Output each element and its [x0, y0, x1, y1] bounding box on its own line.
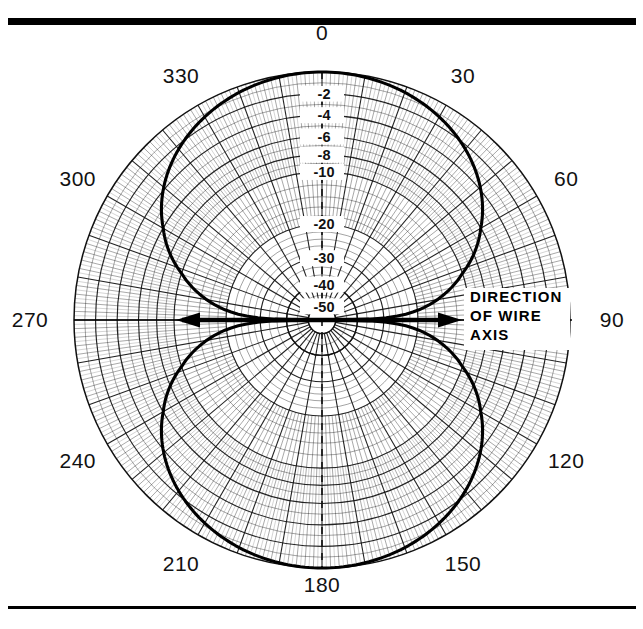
grid-spoke-fine	[275, 465, 294, 563]
grid-spoke-fine	[464, 247, 560, 276]
wire-axis-annotation-line: OF WIRE	[470, 307, 542, 324]
grid-spoke-fine	[225, 92, 264, 184]
grid-spoke-fine	[464, 363, 560, 392]
grid-spoke-fine	[350, 77, 369, 175]
grid-spoke-fine	[365, 83, 394, 179]
angle-label-90: 90	[600, 308, 624, 331]
radial-tick-label: -30	[314, 250, 335, 266]
grid-spoke-major	[107, 196, 310, 313]
grid-spoke-fine	[380, 92, 419, 184]
grid-spoke-minor	[84, 346, 230, 388]
angle-label-210: 210	[163, 552, 200, 575]
grid-spoke-fine	[124, 171, 204, 231]
grid-spoke-fine	[166, 435, 229, 513]
angle-label-330: 330	[163, 64, 200, 87]
radial-tick-label: -6	[318, 129, 331, 145]
grid-spoke-minor	[305, 416, 316, 568]
grid-spoke-minor	[75, 303, 227, 314]
top-rule	[8, 18, 636, 25]
radial-tick-label: -50	[314, 299, 335, 315]
grid-spoke-fine	[85, 363, 181, 392]
wire-axis-annotation: DIRECTIONOF WIREAXIS	[464, 288, 570, 350]
grid-spoke-fine	[249, 83, 278, 179]
grid-spoke-fine	[74, 316, 174, 318]
grid-spoke-fine	[124, 409, 204, 469]
grid-spoke-fine	[440, 171, 520, 231]
polar-radiation-pattern-figure: -2-4-6-8-10-20-30-40-5003060901201501802…	[0, 0, 643, 629]
grid-spoke-fine	[173, 438, 233, 518]
grid-spoke-minor	[287, 415, 308, 566]
grid-spoke-minor	[329, 416, 340, 568]
grid-spoke-minor	[74, 323, 226, 328]
angle-label-150: 150	[445, 552, 482, 575]
angle-label-240: 240	[60, 449, 97, 472]
grid-spoke-major	[107, 327, 310, 444]
radial-tick-label: -20	[314, 216, 335, 232]
grid-spoke-fine	[365, 462, 394, 558]
grid-spoke-fine	[318, 468, 320, 568]
grid-spoke-fine	[141, 421, 214, 489]
grid-spoke-minor	[313, 416, 318, 568]
grid-spoke-fine	[74, 307, 174, 312]
grid-spoke-fine	[350, 465, 369, 563]
grid-spoke-minor	[414, 346, 560, 388]
radial-tick-label: -4	[318, 107, 331, 123]
grid-spoke-minor	[335, 415, 356, 566]
grid-spoke-major	[329, 105, 446, 308]
grid-spoke-major	[198, 105, 315, 308]
grid-spoke-fine	[309, 468, 314, 568]
grid-spoke-fine	[430, 421, 503, 489]
grid-spoke-minor	[348, 412, 390, 558]
angle-label-270: 270	[12, 308, 49, 331]
grid-spoke-fine	[415, 127, 478, 205]
grid-spoke-fine	[249, 462, 278, 558]
grid-spoke-minor	[348, 82, 390, 228]
grid-spoke-fine	[141, 151, 214, 219]
grid-spoke-fine	[173, 122, 233, 202]
grid-spoke-fine	[225, 456, 264, 548]
grid-spoke-major	[329, 332, 446, 535]
arrow-head-right	[438, 313, 462, 328]
polar-chart-svg: -2-4-6-8-10-20-30-40-5003060901201501802…	[0, 0, 643, 629]
grid-spoke-fine	[74, 323, 174, 325]
grid-spoke-minor	[254, 412, 296, 558]
angle-label-120: 120	[548, 449, 585, 472]
grid-spoke-minor	[75, 327, 227, 338]
grid-spoke-fine	[79, 348, 177, 367]
grid-spoke-fine	[467, 348, 565, 367]
wire-axis-annotation-line: AXIS	[470, 326, 509, 343]
radial-tick-label: -8	[318, 147, 331, 163]
grid-spoke-fine	[380, 456, 419, 548]
grid-spoke-fine	[325, 468, 327, 568]
wire-axis-annotation-line: DIRECTION	[470, 288, 562, 305]
grid-spoke-fine	[330, 468, 335, 568]
grid-spoke-fine	[275, 77, 294, 175]
grid-spoke-minor	[332, 415, 348, 566]
grid-spoke-fine	[166, 127, 229, 205]
grid-spoke-fine	[440, 409, 520, 469]
radial-tick-label: -2	[318, 86, 331, 102]
angle-label-60: 60	[554, 167, 578, 190]
grid-spoke-major	[198, 332, 315, 535]
grid-spoke-minor	[296, 415, 312, 566]
grid-spoke-fine	[79, 273, 177, 292]
angle-label-30: 30	[451, 64, 475, 87]
grid-spoke-fine	[411, 438, 471, 518]
angle-label-180: 180	[304, 573, 341, 596]
grid-spoke-fine	[415, 435, 478, 513]
bottom-rule	[8, 606, 636, 609]
grid-spoke-minor	[74, 311, 226, 316]
grid-spoke-fine	[85, 247, 181, 276]
grid-spoke-minor	[254, 82, 296, 228]
angle-label-300: 300	[60, 167, 97, 190]
grid-spoke-fine	[430, 151, 503, 219]
radial-tick-label: -10	[314, 164, 335, 180]
grid-spoke-fine	[411, 122, 471, 202]
grid-spoke-minor	[325, 416, 330, 568]
radial-tick-label: -40	[314, 277, 335, 293]
grid-spoke-fine	[74, 328, 174, 333]
grid-spoke-minor	[84, 252, 230, 294]
